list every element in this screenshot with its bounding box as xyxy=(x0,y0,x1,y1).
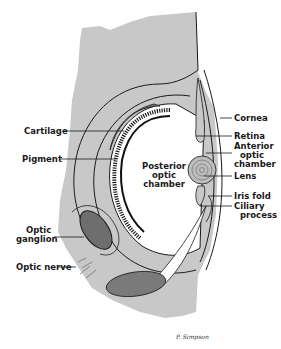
label-anterior-3: chamber xyxy=(234,160,276,169)
label-optic-nerve: Optic nerve xyxy=(16,263,72,272)
label-ciliary-2: process xyxy=(240,211,277,220)
label-iris-fold: Iris fold xyxy=(234,192,271,201)
label-lens: Lens xyxy=(234,172,256,181)
artist-signature: P. Simpson xyxy=(176,333,209,340)
label-posterior-3: chamber xyxy=(138,180,190,189)
eye-diagram: Cornea Retina Anterior optic chamber Len… xyxy=(0,0,281,349)
label-cartilage: Cartilage xyxy=(24,127,68,136)
label-retina: Retina xyxy=(234,132,265,141)
label-cornea: Cornea xyxy=(234,114,268,123)
label-pigment: Pigment xyxy=(22,155,62,164)
label-optic-ganglion-2: ganglion xyxy=(16,235,58,244)
